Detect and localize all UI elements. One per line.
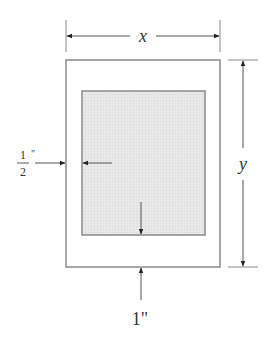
width-label: x [138,26,147,46]
height-label: y [237,154,247,174]
width-dimension: x [66,20,220,52]
side-margin-denominator: 2 [20,165,26,179]
poster-diagram: x y 1 " 2 1" [0,0,275,339]
side-margin-unit: " [31,148,35,159]
height-dimension: y [228,60,258,267]
bottom-margin-label: 1" [132,309,148,329]
side-margin-numerator: 1 [20,148,26,162]
